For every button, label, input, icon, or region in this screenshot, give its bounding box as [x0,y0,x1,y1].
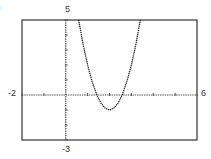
plot-area [0,0,211,159]
xmax-label: 6 [201,89,206,98]
plot-frame [22,20,197,140]
parabola-curve [79,20,141,110]
graph-figure: ) 5 -3 -2 6 [0,0,211,159]
ymin-label: -3 [62,145,70,154]
xmin-label: -2 [8,89,16,98]
ymax-label: 5 [65,5,70,14]
